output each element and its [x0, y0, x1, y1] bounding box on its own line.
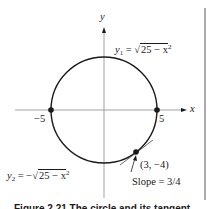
point-neg5	[48, 107, 54, 113]
point-label: (3, −4)	[140, 160, 169, 171]
upper-eq-power: 2	[168, 43, 172, 51]
upper-eq-sign: = √	[123, 44, 140, 55]
lower-eq-sign: = −√	[15, 170, 38, 181]
upper-eq-radicand: 25 − x	[140, 43, 168, 55]
y-axis-arrow-icon	[102, 27, 106, 33]
x-axis-label: x	[190, 104, 195, 115]
tick-right-label: 5	[159, 114, 164, 125]
slope-label: Slope = 3/4	[132, 177, 181, 188]
slope-pointer-arrow-icon	[133, 155, 137, 161]
lower-equation: y2 = −√25 − x2	[7, 170, 69, 183]
upper-equation: y1 = √25 − x2	[115, 44, 172, 57]
lower-eq-power: 2	[66, 169, 70, 177]
point-5	[154, 107, 160, 113]
figure-caption: Figure 2.21 The circle and its tangent	[14, 203, 190, 209]
x-axis-arrow-icon	[181, 108, 187, 112]
tick-left-label: −5	[34, 114, 45, 125]
y-axis-label: y	[100, 12, 105, 23]
point-3-neg4	[133, 149, 139, 155]
lower-eq-radicand: 25 − x	[38, 169, 66, 181]
